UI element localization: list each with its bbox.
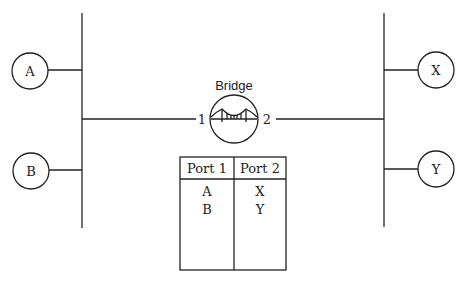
bridge-icon bbox=[211, 109, 257, 122]
table-cell: X bbox=[255, 184, 265, 199]
table-cell: Y bbox=[255, 202, 265, 217]
bridge-diagram: Bridge 1 2 A B X Y Port 1 Port 2 A X B Y bbox=[0, 0, 468, 281]
node-a-label: A bbox=[24, 64, 35, 79]
table-cell: A bbox=[201, 184, 212, 199]
table-header-port2: Port 2 bbox=[240, 161, 280, 176]
node-y-label: Y bbox=[431, 162, 441, 177]
table-cell: B bbox=[202, 202, 212, 217]
bridge-label: Bridge bbox=[215, 78, 253, 93]
node-x-label: X bbox=[431, 63, 441, 78]
node-b-label: B bbox=[26, 164, 36, 179]
table-header-port1: Port 1 bbox=[187, 161, 227, 176]
port-1-label: 1 bbox=[198, 112, 206, 127]
port-2-label: 2 bbox=[263, 112, 271, 127]
